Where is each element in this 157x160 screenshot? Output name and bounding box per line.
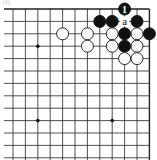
- white-stone: [131, 40, 143, 52]
- black-stone: [119, 28, 131, 40]
- white-stone: [81, 40, 93, 52]
- white-stone: [81, 28, 93, 40]
- white-stone: [106, 28, 118, 40]
- black-stone: [106, 15, 118, 27]
- point-label: a: [122, 15, 127, 27]
- star-point: [110, 119, 114, 123]
- black-stone: [131, 15, 143, 27]
- star-point: [36, 119, 40, 123]
- black-stone: [119, 40, 131, 52]
- go-board: 1a: [0, 0, 157, 160]
- black-stone: [94, 15, 106, 27]
- white-stone: [119, 53, 131, 65]
- white-stone: [106, 40, 118, 52]
- white-stone: [57, 28, 69, 40]
- white-stone: [131, 28, 143, 40]
- star-point: [36, 44, 40, 48]
- black-stone: [143, 28, 155, 40]
- white-stone: [131, 53, 143, 65]
- move-number-label: 1: [122, 4, 127, 15]
